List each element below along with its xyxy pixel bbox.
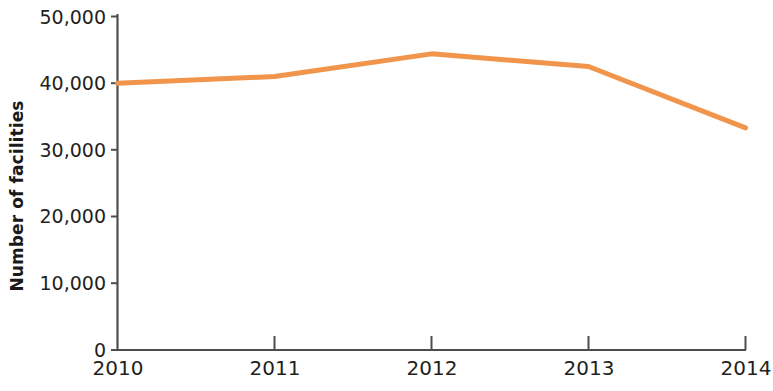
x-axis-ticks — [275, 336, 746, 350]
plot-area — [0, 0, 773, 391]
x-tick-label-2013: 2013 — [539, 358, 639, 378]
x-tick-label-2011: 2011 — [225, 358, 325, 378]
x-tick-label-2014: 2014 — [696, 358, 773, 378]
x-tick-label-2012: 2012 — [382, 358, 482, 378]
x-tick-label-2010: 2010 — [68, 358, 168, 378]
line-chart: Number of facilities 50,000 40,000 30,00… — [0, 0, 773, 391]
series-line-number-of-facilities — [118, 54, 746, 128]
